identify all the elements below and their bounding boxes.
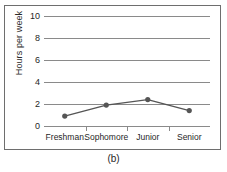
series-polyline	[65, 100, 190, 117]
x-tick-mark	[169, 127, 170, 131]
series-markers	[62, 97, 192, 119]
x-tick-mark	[86, 127, 87, 131]
data-point-marker	[104, 103, 109, 108]
y-axis-title: Hours per week	[14, 0, 24, 88]
figure-panel: Hours per week 0246810 FreshmanSophomore…	[0, 0, 227, 172]
x-tick-label: Junior	[136, 132, 159, 142]
x-tick-label: Senior	[177, 132, 202, 142]
data-point-marker	[187, 108, 192, 113]
data-point-marker	[145, 97, 150, 102]
y-tick-label: 0	[35, 121, 40, 131]
line-series	[44, 16, 210, 126]
plot-area: 0246810 FreshmanSophomoreJuniorSenior	[44, 16, 210, 126]
y-tick-label: 8	[35, 33, 40, 43]
data-point-marker	[62, 114, 67, 119]
figure-caption: (b)	[0, 153, 227, 164]
y-tick-label: 6	[35, 55, 40, 65]
y-tick-label: 2	[35, 99, 40, 109]
x-tick-label: Sophomore	[84, 132, 128, 142]
x-tick-label: Freshman	[46, 132, 84, 142]
x-tick-mark	[127, 127, 128, 131]
y-tick-label: 10	[30, 11, 40, 21]
y-tick-label: 4	[35, 77, 40, 87]
